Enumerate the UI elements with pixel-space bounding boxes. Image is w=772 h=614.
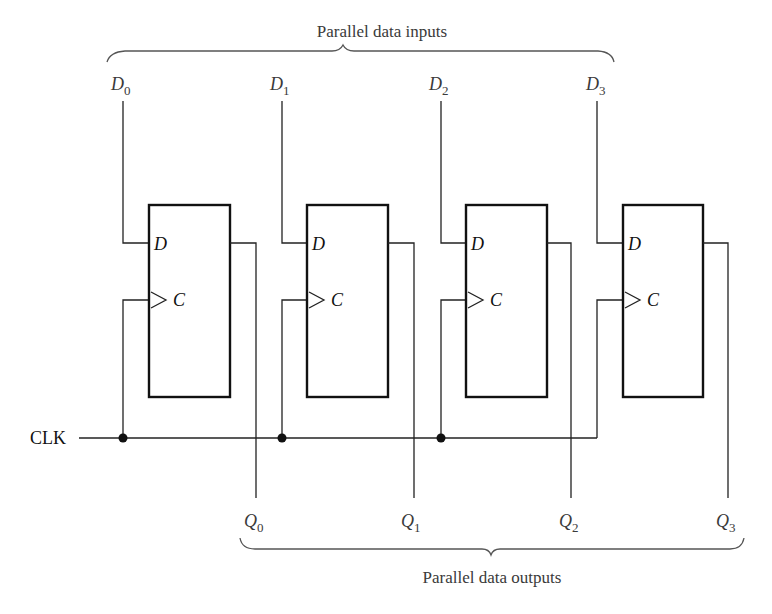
clk-label: CLK <box>30 428 66 448</box>
svg-text:C: C <box>490 290 503 310</box>
input-label-d0: D0 <box>110 74 131 98</box>
flipflop-3: D3 D C Q3 <box>585 74 736 535</box>
output-label-q1: Q1 <box>401 511 421 535</box>
output-label-q3: Q3 <box>716 511 736 535</box>
flipflop-2: D2 D C Q2 <box>428 74 579 535</box>
input-label-d1: D1 <box>269 74 290 98</box>
inputs-title: Parallel data inputs <box>317 22 447 41</box>
flipflop-0: D0 D C Q0 <box>110 74 264 535</box>
input-label-d3: D3 <box>585 74 606 98</box>
svg-text:C: C <box>647 290 660 310</box>
output-label-q0: Q0 <box>244 511 264 535</box>
svg-text:C: C <box>331 290 344 310</box>
junction-dot <box>278 434 287 443</box>
svg-text:D: D <box>627 234 641 254</box>
outputs-brace <box>240 538 744 555</box>
register-diagram: Parallel data inputs Parallel data outpu… <box>0 0 772 614</box>
svg-text:D: D <box>311 234 325 254</box>
junction-dot <box>437 434 446 443</box>
svg-text:D: D <box>470 234 484 254</box>
outputs-title: Parallel data outputs <box>423 568 562 587</box>
svg-text:C: C <box>173 290 186 310</box>
input-label-d2: D2 <box>428 74 449 98</box>
inputs-brace <box>107 45 614 62</box>
output-label-q2: Q2 <box>559 511 579 535</box>
svg-text:D: D <box>153 234 167 254</box>
junction-dot <box>119 434 128 443</box>
flipflop-1: D1 D C Q1 <box>269 74 421 535</box>
